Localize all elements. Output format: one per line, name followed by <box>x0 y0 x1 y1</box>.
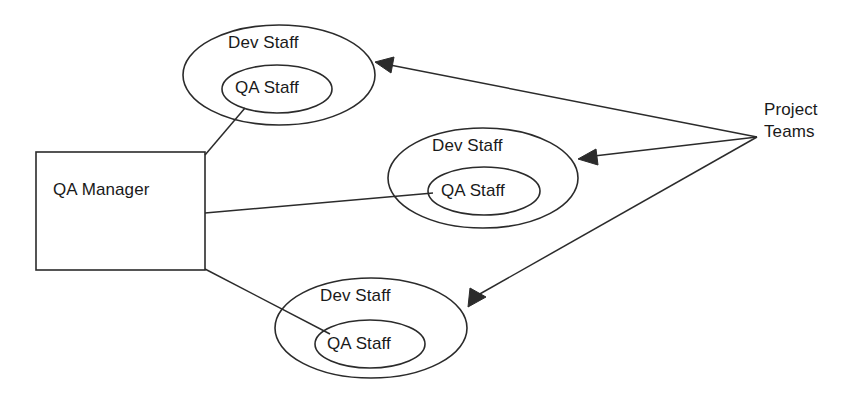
project-teams-line-1: Project <box>764 99 854 121</box>
qa-staff-label-2: QA Staff <box>441 181 505 201</box>
diagram-svg <box>0 0 866 413</box>
arrow-line-to-team-1 <box>390 65 757 137</box>
connector-qa-manager-to-team-3 <box>205 269 330 334</box>
arrow-line-to-team-2 <box>594 137 757 156</box>
qa-manager-label: QA Manager <box>53 180 149 200</box>
qa-staff-label-3: QA Staff <box>327 334 391 354</box>
project-teams-line-2: Teams <box>764 121 854 143</box>
dev-staff-label-3: Dev Staff <box>320 286 391 306</box>
connector-qa-manager-to-team-2 <box>205 193 433 213</box>
qa-staff-label-1: QA Staff <box>235 78 299 98</box>
dev-staff-label-2: Dev Staff <box>432 136 503 156</box>
diagram-canvas: Dev Staff QA Staff Dev Staff QA Staff De… <box>0 0 866 413</box>
connector-qa-manager-to-team-1 <box>205 108 245 155</box>
qa-manager-box <box>36 152 205 270</box>
dev-staff-label-1: Dev Staff <box>228 33 299 53</box>
arrow-head-to-team-1 <box>375 57 394 73</box>
arrow-head-to-team-2 <box>578 149 598 165</box>
arrow-line-to-team-3 <box>478 137 757 295</box>
project-teams-annotation: Project Teams <box>764 99 854 143</box>
connector-group <box>205 108 433 334</box>
arrow-head-to-team-3 <box>468 288 486 307</box>
